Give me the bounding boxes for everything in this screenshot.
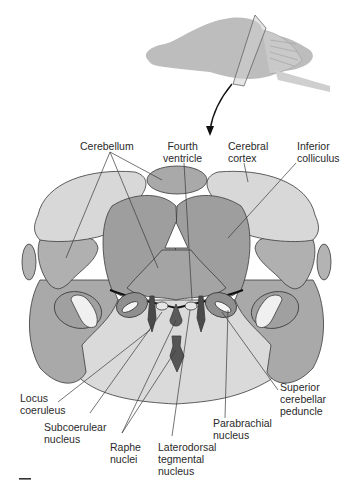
left-ldt [156, 302, 168, 310]
right-ldt [185, 302, 197, 310]
label-laterodorsal-tegmental-nucleus: Laterodorsal tegmental nucleus [158, 441, 216, 477]
label-cerebral-cortex: Cerebral cortex [228, 140, 268, 164]
label-superior-cerebellar-peduncle: Superior cerebellar peduncle [280, 381, 326, 417]
label-cerebellum: Cerebellum [80, 140, 134, 152]
right-flocculus [317, 244, 331, 280]
left-flocculus [22, 244, 36, 280]
cross-section [22, 166, 331, 404]
label-locus-coeruleus: Locus coeruleus [20, 392, 66, 416]
whole-brain-illustration [146, 15, 330, 136]
label-fourth-ventricle: Fourth ventricle [163, 140, 202, 164]
label-parabrachial-nucleus: Parabrachial nucleus [213, 417, 272, 441]
label-inferior-colliculus: Inferior colliculus [297, 140, 340, 164]
label-subcoerulear-nucleus: Subcoerulear nucleus [44, 421, 106, 445]
label-raphe-nuclei: Raphe nuclei [110, 441, 141, 465]
cerebellum-vermis-top [147, 166, 207, 194]
scale-bar [19, 478, 31, 480]
